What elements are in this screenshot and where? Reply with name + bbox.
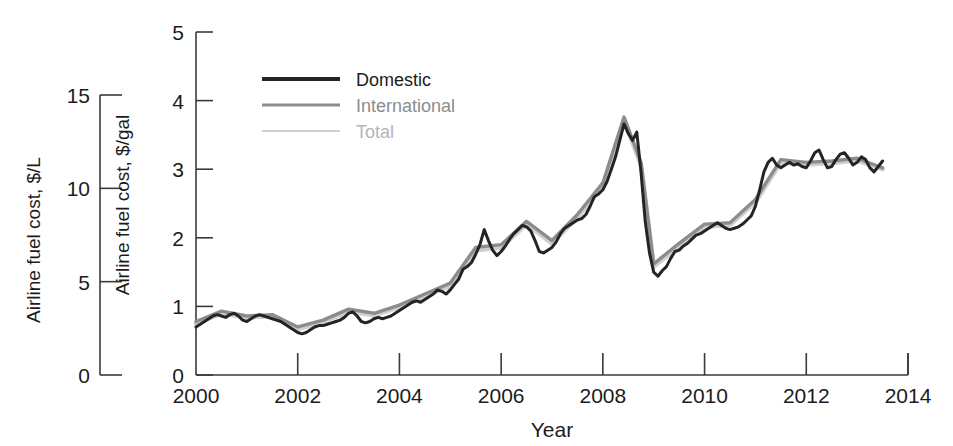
secondary-y-tick-label: 5 — [78, 271, 90, 294]
secondary-y-tick-label: 10 — [67, 177, 90, 200]
chart-legend: DomesticInternationalTotal — [262, 70, 455, 142]
y-tick-label: 2 — [172, 227, 184, 250]
legend-label-international: International — [356, 96, 455, 116]
x-axis: 20002002200420062008201020122014 — [173, 353, 932, 407]
x-tick-label: 2004 — [376, 384, 423, 407]
y-tick-label: 4 — [172, 90, 184, 113]
chart-figure: 051015 Airline fuel cost, $/L 012345 Air… — [0, 0, 953, 446]
y-tick-label: 5 — [172, 21, 184, 44]
x-tick-label: 2006 — [478, 384, 525, 407]
x-axis-title: Year — [531, 418, 573, 441]
series-line-total — [196, 120, 883, 329]
legend-label-total: Total — [356, 122, 394, 142]
x-tick-label: 2002 — [274, 384, 321, 407]
primary-y-axis-title: Airline fuel cost, $/gal — [112, 115, 133, 296]
primary-y-axis: 012345 — [172, 21, 213, 387]
series-line-international — [196, 117, 883, 327]
x-tick-label: 2012 — [783, 384, 830, 407]
y-tick-label: 3 — [172, 158, 184, 181]
secondary-y-axis-title: Airline fuel cost, $/L — [23, 157, 44, 323]
legend-label-domestic: Domestic — [356, 70, 431, 90]
series-layer — [196, 117, 883, 334]
y-tick-label: 1 — [172, 295, 184, 318]
x-tick-label: 2008 — [579, 384, 626, 407]
x-tick-label: 2014 — [885, 384, 932, 407]
x-tick-label: 2000 — [173, 384, 220, 407]
secondary-y-tick-label: 15 — [67, 84, 90, 107]
fuel-cost-line-chart: 051015 Airline fuel cost, $/L 012345 Air… — [0, 0, 953, 446]
secondary-y-tick-label: 0 — [78, 364, 90, 387]
x-tick-label: 2010 — [681, 384, 728, 407]
